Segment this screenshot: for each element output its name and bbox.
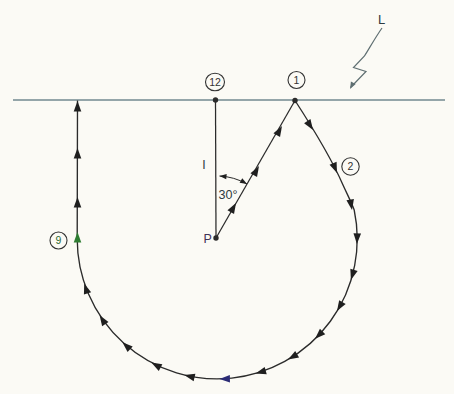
motion-arrowhead xyxy=(347,269,357,281)
clock-marker-label-9: 9 xyxy=(56,234,62,246)
motion-arrowhead xyxy=(150,359,163,371)
point-dot-12 xyxy=(213,97,218,102)
clock-marker-label-1: 1 xyxy=(294,74,300,86)
diagram-stage: 12 1 2 9 L l 30° P xyxy=(0,0,454,394)
clock-marker-1: 1 xyxy=(288,72,305,89)
string-length-label: l xyxy=(203,157,206,172)
motion-arrowhead xyxy=(81,282,92,294)
motion-arrowhead xyxy=(334,300,346,313)
clock-marker-label-2: 2 xyxy=(348,160,354,172)
motion-arrowhead xyxy=(330,162,341,175)
motion-arrowhead xyxy=(74,101,82,112)
motion-arrowhead xyxy=(227,201,239,214)
center-point-label: P xyxy=(204,232,212,246)
motion-arrowhead xyxy=(255,367,267,377)
clock-trajectory-diagram: 12 1 2 9 L l 30° P xyxy=(0,0,454,394)
clock-marker-9: 9 xyxy=(50,232,67,249)
clock-marker-label-12: 12 xyxy=(209,76,221,88)
motion-arrowhead xyxy=(183,371,195,381)
motion-arrowhead xyxy=(74,232,82,243)
motion-arrowhead xyxy=(286,351,299,363)
clock-marker-2: 2 xyxy=(342,158,359,175)
surface-line-label: L xyxy=(378,12,385,27)
string-line-12 xyxy=(216,100,217,238)
motion-arrowhead xyxy=(353,233,361,244)
arrow-layer xyxy=(74,82,361,383)
point-dot-p xyxy=(213,235,218,240)
point-dot-1 xyxy=(292,98,297,103)
motion-arrowhead xyxy=(74,148,82,159)
callout-squiggle xyxy=(351,28,383,88)
angle-value-label: 30° xyxy=(219,188,238,202)
motion-arrowhead xyxy=(74,197,82,208)
clock-marker-12: 12 xyxy=(206,73,225,91)
annotation-arrowhead xyxy=(219,173,226,179)
motion-arrowhead xyxy=(219,375,230,383)
